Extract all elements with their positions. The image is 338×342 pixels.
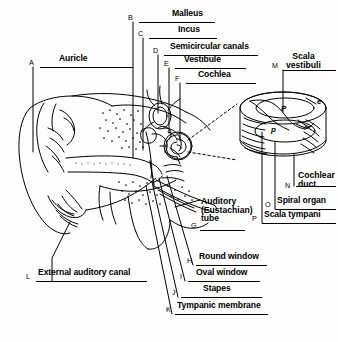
callout-key-N: N	[285, 181, 290, 190]
callout-rule-F	[186, 83, 256, 84]
callout-rule-N	[296, 186, 336, 187]
marker-scala-vestibuli-fluid: P	[281, 104, 286, 113]
callout-label-incus: Incus	[178, 24, 200, 34]
marker-endolymph: e	[317, 97, 321, 106]
callout-key-O: O	[265, 200, 271, 209]
callout-label-spiral-organ: Spiral organ	[277, 195, 326, 205]
external-auditory-canal-artwork	[66, 156, 162, 182]
callout-key-F: F	[175, 74, 179, 83]
marker-scala-tympani-fluid: p	[271, 125, 276, 134]
temporal-bone-artwork	[72, 94, 210, 250]
callout-label-vestibule: Vestibule	[184, 54, 221, 64]
callout-rule-C	[149, 38, 217, 39]
callout-key-E: E	[164, 59, 169, 68]
callout-label-stapes: Stapes	[203, 283, 231, 293]
callout-label-eustachian-tube: Auditory (Eustachian) tube	[201, 197, 253, 223]
callout-rule-A	[40, 67, 133, 68]
callout-rule-P	[262, 223, 336, 224]
callout-rule-B	[139, 22, 215, 23]
semicircular-canals-artwork	[143, 86, 180, 132]
callout-key-D: D	[153, 46, 158, 55]
scala-vestibuli-line2: vestibuli	[286, 61, 321, 70]
ear-anatomy-figure: A Auricle B Malleus C Incus D Semicircul…	[0, 0, 338, 342]
cochlea-spiral-artwork	[160, 132, 192, 160]
callout-label-scala-tympani: Scala tympani	[264, 209, 321, 219]
legend: External ear A L Middle ear B C J Inner …	[0, 296, 338, 342]
callout-label-round-window: Round window	[199, 251, 259, 261]
callout-key-B: B	[128, 13, 133, 22]
windows-artwork	[162, 165, 184, 182]
eustachian-line3: tube	[201, 214, 253, 223]
callout-rule-I	[188, 281, 260, 282]
callout-key-I: I	[180, 272, 182, 281]
callout-key-L: L	[26, 272, 30, 281]
callout-label-external-auditory-canal: External auditory canal	[38, 267, 130, 277]
callout-key-C: C	[138, 29, 143, 38]
callout-key-H: H	[187, 256, 192, 265]
callout-key-G: G	[191, 221, 197, 230]
callout-label-cochlea: Cochlea	[198, 69, 231, 79]
callout-label-scala-vestibuli: Scala vestibuli	[286, 52, 321, 69]
callout-rule-M	[283, 70, 336, 71]
callout-rule-H	[196, 265, 267, 266]
callout-rule-L	[36, 281, 147, 282]
callout-label-oval-window: Oval window	[196, 267, 247, 277]
callout-label-auricle: Auricle	[59, 53, 87, 63]
canal-lining-texture	[75, 162, 130, 165]
callout-key-M: M	[272, 61, 278, 70]
callout-rule-G	[200, 230, 245, 231]
magnification-dashed-lines	[188, 104, 237, 160]
callout-label-malleus: Malleus	[172, 8, 203, 18]
callout-key-A: A	[29, 58, 34, 67]
callout-label-semicircular-canals: Semicircular canals	[170, 41, 249, 51]
callout-key-P: P	[252, 214, 257, 223]
